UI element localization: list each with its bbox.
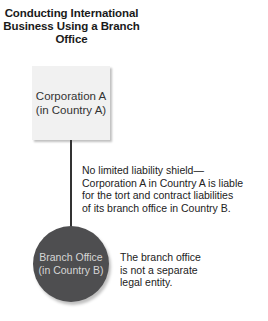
entity-note-line: legal entity.: [120, 276, 260, 289]
connector-line: [70, 140, 72, 227]
branch-office-circle: Branch Office (in Country B): [33, 226, 109, 302]
title-line: Conducting International: [0, 7, 143, 20]
corporation-a-name: Corporation A: [36, 89, 106, 103]
entity-note-line: The branch office: [120, 251, 260, 264]
liability-note: No limited liability shield— Corporation…: [82, 164, 267, 214]
note-line: for the tort and contract liabilities: [82, 189, 267, 202]
branch-office-name: Branch Office: [39, 251, 104, 264]
note-line: Corporation A in Country A is liable: [82, 177, 267, 190]
corporation-a-box: Corporation A (in Country A): [32, 66, 110, 140]
note-line: of its branch office in Country B.: [82, 202, 267, 215]
title-line: Business Using a Branch: [0, 20, 143, 33]
entity-note: The branch office is not a separate lega…: [120, 251, 260, 289]
corporation-a-country: (in Country A): [36, 103, 106, 117]
entity-note-line: is not a separate: [120, 264, 260, 277]
branch-office-country: (in Country B): [39, 264, 104, 277]
title-line: Office: [0, 33, 143, 46]
diagram-title: Conducting International Business Using …: [0, 7, 143, 46]
note-line: No limited liability shield—: [82, 164, 267, 177]
